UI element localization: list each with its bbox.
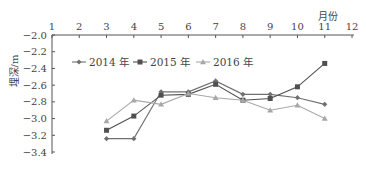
square-marker xyxy=(213,82,218,87)
legend-item: 2016 年 xyxy=(196,56,253,68)
x-tick-label: 5 xyxy=(158,21,164,32)
square-marker xyxy=(322,61,327,66)
square-marker xyxy=(159,93,164,98)
square-marker xyxy=(104,128,109,133)
y-tick-label: −3.0 xyxy=(23,113,47,124)
legend-label: 2015 年 xyxy=(150,56,190,68)
diamond-marker xyxy=(131,136,136,141)
legend-label: 2014 年 xyxy=(89,56,129,68)
y-tick-label: −2.4 xyxy=(23,63,47,74)
legend-label: 2016 年 xyxy=(213,56,253,68)
x-tick-label: 8 xyxy=(240,21,246,32)
triangle-marker xyxy=(322,116,328,121)
series-group xyxy=(104,61,328,141)
y-tick-label: −3.4 xyxy=(23,147,47,158)
y-tick-label: −2.0 xyxy=(23,30,47,41)
x-tick-label: 4 xyxy=(131,21,137,32)
x-tick-label: 6 xyxy=(185,21,191,32)
square-marker xyxy=(131,114,136,119)
diamond-marker xyxy=(104,136,109,141)
legend-item: 2014 年 xyxy=(72,56,129,68)
square-marker xyxy=(138,60,143,65)
legend: 2014 年2015 年2016 年 xyxy=(72,56,253,68)
x-tick-label: 9 xyxy=(267,21,273,32)
diamond-marker xyxy=(295,95,300,100)
y-tick-label: −2.6 xyxy=(23,80,47,91)
line-chart: 123456789101112−2.0−2.2−2.4−2.6−2.8−3.0−… xyxy=(0,0,366,169)
diamond-marker xyxy=(322,102,327,107)
x-tick-label: 1 xyxy=(49,21,55,32)
x-tick-label: 3 xyxy=(103,21,109,32)
x-tick-label: 7 xyxy=(212,21,218,32)
square-marker xyxy=(268,96,273,101)
diamond-marker xyxy=(76,59,81,64)
triangle-marker xyxy=(131,97,137,102)
y-axis-title: 埋深/m xyxy=(9,54,20,87)
x-axis-title: 月份 xyxy=(318,11,338,22)
series-2016 xyxy=(104,91,328,124)
triangle-marker xyxy=(294,102,300,107)
x-tick-label: 10 xyxy=(291,21,304,32)
square-marker xyxy=(295,84,300,89)
x-tick-label: 12 xyxy=(346,21,359,32)
y-tick-label: −2.8 xyxy=(23,96,47,107)
y-tick-label: −2.2 xyxy=(23,46,47,57)
x-tick-label: 2 xyxy=(76,21,82,32)
tick-labels: 123456789101112−2.0−2.2−2.4−2.6−2.8−3.0−… xyxy=(23,21,359,158)
axes xyxy=(52,35,354,154)
diamond-marker xyxy=(240,92,245,97)
x-tick-label: 11 xyxy=(318,21,331,32)
y-tick-label: −3.2 xyxy=(23,130,47,141)
legend-item: 2015 年 xyxy=(133,56,190,68)
